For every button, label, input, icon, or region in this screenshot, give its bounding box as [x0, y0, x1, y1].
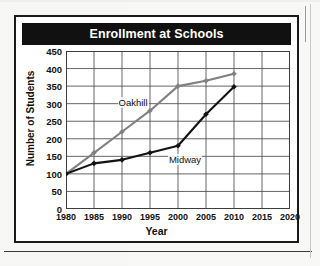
y-tick-label: 300: [46, 98, 62, 109]
x-tick-label: 2005: [196, 212, 216, 222]
chart-figure: Enrollment at Schools Number of Students…: [14, 15, 299, 243]
y-tick-label: 400: [46, 63, 62, 74]
data-point-marker: [203, 78, 209, 84]
data-point-marker: [119, 157, 125, 163]
page-vertical-rule: [310, 4, 311, 258]
x-tick-label: 2000: [168, 212, 188, 222]
data-point-marker: [91, 161, 97, 167]
y-tick-label: 50: [51, 186, 62, 197]
chart-title: Enrollment at Schools: [89, 27, 223, 41]
y-tick-label: 200: [46, 133, 62, 144]
page-vertical-rule-secondary: [305, 6, 306, 42]
y-tick-label: 450: [46, 46, 62, 57]
x-tick-label: 1995: [140, 212, 160, 222]
x-tick-label: 2020: [280, 212, 300, 222]
gridlines: [66, 51, 290, 209]
series-midway: [66, 84, 237, 177]
y-tick-label: 150: [46, 151, 62, 162]
series-layer: [66, 71, 237, 177]
x-tick-label: 1990: [112, 212, 132, 222]
series-label-midway: Midway: [168, 154, 202, 165]
chart-plot-svg: [66, 51, 290, 209]
data-point-marker: [147, 150, 153, 156]
x-tick-label: 1985: [84, 212, 104, 222]
y-tick-label: 350: [46, 81, 62, 92]
x-tick-label: 2015: [252, 212, 272, 222]
x-axis-title: Year: [16, 225, 297, 237]
x-tick-label: 2010: [224, 212, 244, 222]
y-tick-label: 250: [46, 116, 62, 127]
plot-area: 050100150200250300350400450 198019851990…: [66, 51, 290, 209]
series-oakhill: [66, 71, 237, 177]
y-axis-title: Number of Students: [25, 59, 36, 179]
y-tick-label: 100: [46, 168, 62, 179]
page-horizontal-rule: [4, 251, 312, 252]
series-label-oakhill: Oakhill: [118, 97, 149, 108]
chart-title-bar: Enrollment at Schools: [22, 23, 291, 45]
x-tick-label: 1980: [56, 212, 76, 222]
data-point-marker: [231, 71, 237, 77]
